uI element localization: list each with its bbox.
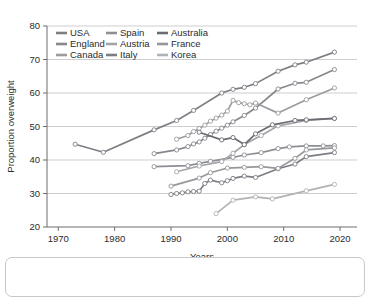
data-point	[197, 164, 201, 168]
data-point	[220, 160, 224, 164]
data-point	[169, 184, 173, 188]
x-tick-label: 1980	[104, 233, 125, 244]
data-point	[231, 135, 235, 139]
data-point	[231, 155, 235, 159]
data-point	[304, 98, 308, 102]
legend-item-australia[interactable]: Australia	[157, 27, 209, 38]
data-point	[101, 150, 105, 154]
data-point	[242, 174, 246, 178]
legend-label: France	[171, 38, 201, 49]
data-point	[270, 197, 274, 201]
data-point	[253, 101, 257, 105]
data-point	[203, 123, 207, 127]
data-point	[253, 132, 257, 136]
series-korea	[214, 182, 337, 215]
data-point	[186, 145, 190, 149]
y-tick-label: 40	[29, 154, 40, 165]
data-point	[242, 165, 246, 169]
legend-label: England	[70, 38, 105, 49]
panel-bottom-edge	[5, 257, 365, 297]
data-point	[197, 130, 201, 134]
data-point	[293, 81, 297, 85]
data-point	[242, 142, 246, 146]
data-point	[259, 151, 263, 155]
data-point	[253, 195, 257, 199]
data-point	[242, 113, 246, 117]
data-point	[152, 128, 156, 132]
data-point	[152, 165, 156, 169]
data-point	[304, 189, 308, 193]
data-point	[214, 212, 218, 216]
legend-item-italy[interactable]: Italy	[106, 49, 138, 60]
data-point	[304, 80, 308, 84]
series-lines	[73, 50, 336, 216]
data-point	[220, 138, 224, 142]
legend-item-france[interactable]: France	[157, 38, 201, 49]
x-tick-label: 1990	[160, 233, 181, 244]
data-point	[220, 181, 224, 185]
legend-item-usa[interactable]: USA	[56, 27, 90, 38]
data-point	[208, 119, 212, 123]
legend-label: Canada	[70, 49, 104, 60]
x-tick-label: 2020	[330, 233, 351, 244]
data-point	[186, 164, 190, 168]
data-point	[225, 179, 229, 183]
data-point	[231, 176, 235, 180]
data-point	[169, 192, 173, 196]
data-point	[253, 175, 257, 179]
legend-item-korea[interactable]: Korea	[157, 49, 197, 60]
data-point	[231, 87, 235, 91]
data-point	[175, 170, 179, 174]
data-point	[225, 123, 229, 127]
data-point	[242, 153, 246, 157]
data-point	[191, 108, 195, 112]
data-point	[186, 133, 190, 137]
data-point	[332, 50, 336, 54]
data-point	[276, 166, 280, 170]
data-point	[225, 109, 229, 113]
data-point	[332, 182, 336, 186]
y-tick-label: 60	[29, 87, 40, 98]
data-point	[304, 60, 308, 64]
data-point	[276, 147, 280, 151]
data-point	[253, 106, 257, 110]
data-point	[175, 118, 179, 122]
x-tick-label: 2010	[273, 233, 294, 244]
legend-item-spain[interactable]: Spain	[106, 27, 144, 38]
legend-item-england[interactable]: England	[56, 38, 105, 49]
data-point	[175, 191, 179, 195]
data-point	[242, 102, 246, 106]
data-point	[332, 67, 336, 71]
data-point	[231, 198, 235, 202]
legend-item-austria[interactable]: Austria	[106, 38, 150, 49]
series-path	[171, 153, 334, 195]
data-point	[293, 63, 297, 67]
data-point	[197, 176, 201, 180]
data-point	[208, 178, 212, 182]
y-tick-label: 70	[29, 54, 40, 65]
data-point	[248, 103, 252, 107]
data-point	[332, 116, 336, 120]
data-point	[304, 148, 308, 152]
data-point	[304, 118, 308, 122]
legend-label: Korea	[171, 49, 197, 60]
data-point	[175, 148, 179, 152]
data-point	[231, 120, 235, 124]
data-point	[225, 166, 229, 170]
data-point	[191, 129, 195, 133]
data-point	[152, 152, 156, 156]
data-point	[304, 144, 308, 148]
legend-label: Australia	[171, 27, 209, 38]
data-point	[332, 151, 336, 155]
legend-label: Italy	[120, 49, 138, 60]
y-tick-label: 30	[29, 188, 40, 199]
legend-item-canada[interactable]: Canada	[56, 49, 104, 60]
y-tick-label: 50	[29, 121, 40, 132]
chart-legend: USASpainAustraliaEnglandAustriaFranceCan…	[56, 27, 209, 60]
data-point	[197, 189, 201, 193]
data-point	[214, 116, 218, 120]
data-point	[73, 142, 77, 146]
data-point	[293, 156, 297, 160]
legend-label: Spain	[120, 27, 144, 38]
